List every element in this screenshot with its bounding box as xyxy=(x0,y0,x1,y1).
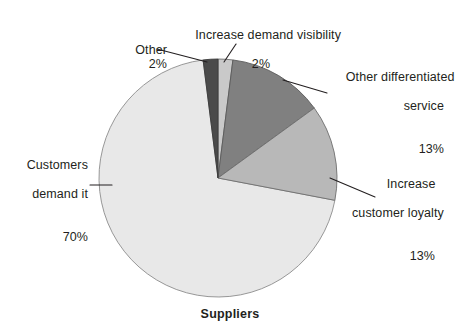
pie-label-customers-demand-it-percent: 70% xyxy=(6,230,88,245)
chart-title: Suppliers xyxy=(0,307,460,321)
pie-label-other-differentiated-service-line1: Other differentiated xyxy=(346,70,455,84)
pie-label-customers-demand-it-line2: demand it xyxy=(6,187,88,202)
pie-label-other-differentiated-service-percent: 13% xyxy=(330,142,456,157)
pie-label-customers-demand-it-line1: Customers xyxy=(27,158,88,172)
pie-label-increase-demand-visibility-percent: 2% xyxy=(181,57,337,72)
pie-label-increase-demand-visibility-text: Increase demand visibility xyxy=(195,28,341,42)
pie-label-increase-customer-loyalty-percent: 13% xyxy=(352,249,456,264)
pie-chart-figure: Other 2% Increase demand visibility 2% O… xyxy=(0,0,460,332)
pie-label-increase-customer-loyalty-line2: customer loyalty xyxy=(352,206,456,221)
pie-label-other-percent: 2% xyxy=(149,57,167,71)
pie-label-increase-customer-loyalty-line1: Increase xyxy=(387,177,436,191)
pie-label-increase-demand-visibility: Increase demand visibility 2% xyxy=(181,13,337,100)
pie-label-other-differentiated-service-line2: service xyxy=(330,99,456,114)
pie-label-increase-customer-loyalty: Increase customer loyalty 13% xyxy=(352,162,456,293)
pie-label-customers-demand-it: Customers demand it 70% xyxy=(6,143,88,274)
pie-label-other: Other 2% xyxy=(107,28,167,86)
pie-label-other-text: Other xyxy=(135,43,167,57)
